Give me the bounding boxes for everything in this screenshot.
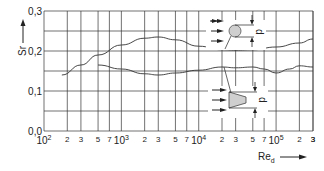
- x-tick-label: 7: [107, 135, 112, 144]
- y-axis-label: Sr: [17, 19, 28, 56]
- x-tick-label: 5: [173, 135, 178, 144]
- x-tick-label: 3: [233, 135, 238, 144]
- circle-shape: [229, 25, 241, 37]
- arrow-up-icon: [21, 19, 26, 26]
- x-tick-label: 2: [297, 135, 302, 144]
- x-decade-label: 102: [36, 134, 51, 146]
- x-decade-label: 105: [269, 134, 284, 146]
- svg-text:d: d: [257, 97, 268, 103]
- x-decade-label: 104: [191, 134, 206, 146]
- y-tick-label: 0,3: [28, 6, 42, 17]
- circle-cross-section-sketch: d: [206, 15, 266, 50]
- x-tick-label: 5: [96, 135, 101, 144]
- x-tick-label: 7: [262, 135, 267, 144]
- x-tick-label: 3: [311, 135, 316, 144]
- svg-text:Sr: Sr: [17, 45, 28, 56]
- arrow-right-icon: [299, 155, 307, 160]
- x-tick-label: 3: [156, 135, 161, 144]
- y-tick-label: 0,1: [28, 86, 42, 97]
- x-axis-label: Red: [258, 151, 307, 164]
- y-axis-ticks: 0,00,10,20,3: [28, 6, 42, 137]
- curve-series-1: [62, 37, 313, 75]
- x-tick-label: 5: [251, 135, 256, 144]
- svg-text:Red: Red: [258, 151, 275, 164]
- x-tick-label: 2: [142, 135, 147, 144]
- x-axis-ticks: 235723572357233102103104105: [36, 134, 315, 146]
- grid: [44, 11, 313, 131]
- strouhal-chart: 0,00,10,20,3 235723572357233102103104105…: [0, 0, 324, 171]
- x-decade-label: 103: [114, 134, 129, 146]
- x-tick-label: 2: [220, 135, 225, 144]
- x-tick-label: 7: [185, 135, 190, 144]
- x-tick-label: 3: [79, 135, 84, 144]
- svg-text:d: d: [254, 29, 265, 35]
- x-tick-label: 2: [65, 135, 70, 144]
- trapezoid-cross-section-sketch: d: [208, 67, 268, 118]
- curve-series-2: [98, 65, 313, 75]
- curves: [62, 37, 313, 75]
- y-tick-label: 0,2: [28, 46, 42, 57]
